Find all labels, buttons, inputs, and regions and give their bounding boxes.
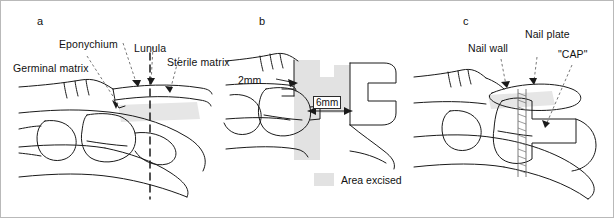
panel-c-illustration: [406, 1, 614, 218]
legend-swatch: [314, 173, 334, 186]
label-germinal-matrix: Germinal matrix: [13, 63, 89, 74]
label-eponychium: Eponychium: [59, 39, 118, 50]
panel-c: c: [406, 1, 614, 218]
label-lunula: Lunula: [134, 43, 166, 54]
panel-b: b: [216, 1, 406, 218]
label-cap: "CAP": [558, 49, 588, 60]
label-nail-wall: Nail wall: [468, 43, 508, 54]
measure-2mm: 2mm: [238, 74, 261, 86]
panel-a-illustration: [1, 1, 216, 218]
figure-frame: a: [0, 0, 614, 218]
label-nail-plate: Nail plate: [525, 29, 570, 40]
panel-a: a: [1, 1, 216, 218]
legend-label: Area excised: [341, 174, 402, 186]
legend-area-excised: Area excised: [314, 173, 402, 186]
measure-6mm: 6mm: [313, 96, 341, 109]
